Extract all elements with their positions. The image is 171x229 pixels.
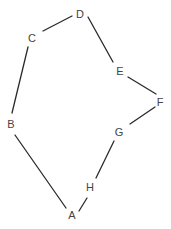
- edge-h-a: [79, 198, 87, 211]
- edge-f-g: [130, 107, 155, 124]
- node-label-h: H: [86, 181, 94, 193]
- polygon-diagram: A B C D E F G H: [0, 0, 171, 229]
- edge-d-e: [88, 17, 113, 62]
- node-label-e: E: [116, 65, 123, 77]
- node-label-g: G: [115, 126, 124, 138]
- node-label-d: D: [76, 8, 84, 20]
- edge-a-b: [15, 135, 66, 208]
- edges-group: [12, 16, 156, 211]
- edge-c-d: [43, 16, 72, 31]
- node-label-c: C: [28, 32, 36, 44]
- edge-g-h: [96, 141, 114, 178]
- edge-e-f: [128, 77, 156, 94]
- edge-b-c: [12, 47, 28, 113]
- nodes-group: A B C D E F G H: [7, 8, 163, 221]
- node-label-b: B: [7, 118, 14, 130]
- node-label-f: F: [157, 96, 164, 108]
- node-label-a: A: [68, 209, 76, 221]
